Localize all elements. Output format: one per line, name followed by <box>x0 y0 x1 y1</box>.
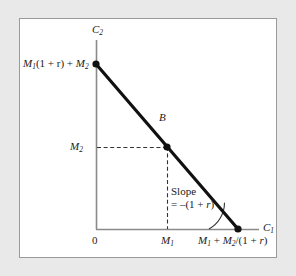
budget-line-label-b: B <box>159 112 166 123</box>
y-intercept-label: M1(1 + r) + M2 <box>23 58 89 70</box>
x-tick-m1-sub: 1 <box>170 239 174 248</box>
y-tick-label-m2: M2 <box>70 141 83 153</box>
marker-y-intercept <box>92 60 99 67</box>
figure-root: C2 C1 M1(1 + r) + M2 M2 B 0 M1 M1 + M2/(… <box>0 0 296 276</box>
x-axis-label-subscript: 1 <box>270 226 274 235</box>
slope-label-line1: Slope <box>171 186 196 197</box>
slope-label-line2: = –(1 + r) <box>171 199 214 210</box>
y-intercept-m2: M <box>76 57 85 69</box>
y-intercept-m2-sub: 2 <box>85 62 89 71</box>
origin-label: 0 <box>92 235 98 246</box>
y-tick-m2-sub: 2 <box>79 145 83 154</box>
x-tick-m1-text: M <box>161 234 170 246</box>
y-tick-m2-text: M <box>70 140 79 152</box>
y-axis-label-subscript: 2 <box>99 28 103 37</box>
y-intercept-mid: (1 + r) + <box>36 57 76 69</box>
x-axis-label: C1 <box>263 222 274 234</box>
x-intercept-label: M1 + M2/(1 + r) <box>198 235 267 247</box>
y-axis-label: C2 <box>92 24 103 36</box>
marker-endowment-b <box>163 143 170 150</box>
x-tick-label-m1: M1 <box>161 235 174 247</box>
y-intercept-m1: M <box>23 57 32 69</box>
marker-x-intercept <box>234 225 241 232</box>
